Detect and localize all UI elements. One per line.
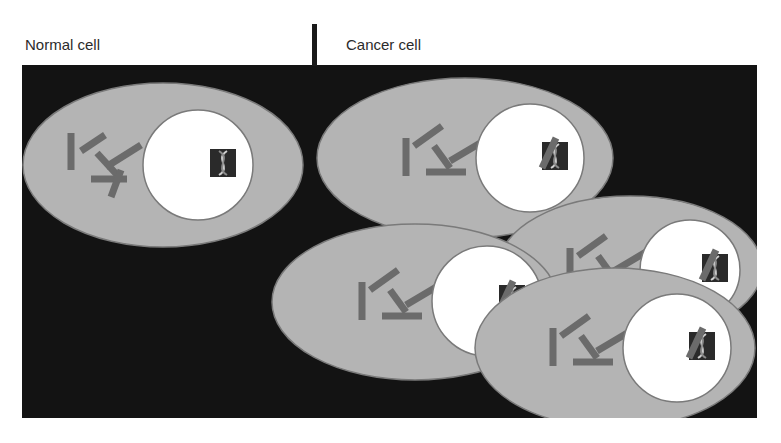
cancer-cell: [475, 268, 755, 428]
cancer-cell-label: Cancer cell: [346, 36, 421, 53]
dna-double-helix-icon: [210, 149, 236, 177]
normal-cell: [23, 83, 303, 247]
cell-diagram: [0, 0, 781, 443]
dna-double-helix-icon: [542, 138, 568, 170]
dna-double-helix-icon: [689, 328, 715, 360]
normal-cancer-divider: [312, 24, 317, 66]
nucleus: [143, 110, 253, 220]
dna-double-helix-icon: [702, 250, 728, 282]
normal-cell-label: Normal cell: [25, 36, 100, 53]
